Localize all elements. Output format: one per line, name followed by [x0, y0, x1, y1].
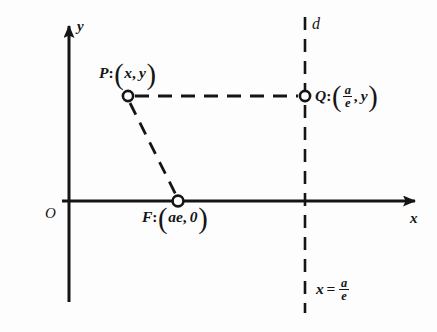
- point-f-open-paren: (: [158, 202, 168, 234]
- point-q-comma: ,: [354, 87, 358, 104]
- point-p-coord-x: x: [124, 64, 132, 81]
- directrix-equation-denominator: e: [339, 289, 348, 303]
- point-f-close-paren: ): [198, 202, 208, 234]
- point-p-open-paren: (: [114, 58, 124, 90]
- point-marker-q: [300, 91, 310, 101]
- point-q-fraction: ae: [343, 84, 352, 110]
- point-f-coord-x: ae: [168, 208, 183, 225]
- point-marker-p: [123, 91, 133, 101]
- directrix-equation-numerator: a: [339, 277, 348, 290]
- point-f-comma: ,: [183, 208, 187, 225]
- point-label-p: P:(x, y): [99, 65, 157, 81]
- directrix-label: d: [312, 16, 320, 32]
- point-q-separator: :: [326, 87, 331, 104]
- point-f-separator: :: [152, 208, 157, 225]
- point-label-f: F:(ae, 0): [142, 209, 208, 225]
- point-q-fraction-denominator: e: [343, 96, 352, 110]
- directrix-equation-variable: x: [316, 280, 324, 297]
- point-q-fraction-numerator: a: [343, 84, 352, 97]
- point-p-comma: ,: [132, 64, 136, 81]
- point-p-coord-y: y: [139, 64, 146, 81]
- directrix-equation-fraction: ae: [339, 277, 348, 303]
- point-f-coord-y: 0: [190, 208, 198, 225]
- point-label-q: Q:(ae, y): [315, 84, 378, 110]
- point-marker-f: [173, 196, 184, 207]
- directrix-equation: x=ae: [316, 277, 350, 303]
- point-q-name: Q: [315, 87, 326, 104]
- diagram-canvas: [0, 0, 437, 332]
- point-p-separator: :: [108, 64, 113, 81]
- conic-focus-directrix-figure: y x O d P:(x, y) Q:(ae, y) F:(ae, 0) x=a…: [0, 0, 437, 332]
- point-q-close-paren: ): [368, 80, 378, 112]
- segment-pf: [130, 103, 176, 195]
- point-q-coord-y: y: [361, 87, 368, 104]
- directrix-equation-equals: =: [327, 280, 336, 297]
- point-p-close-paren: ): [147, 58, 157, 90]
- point-q-open-paren: (: [332, 80, 342, 112]
- origin-label: O: [45, 206, 56, 221]
- x-axis-label: x: [410, 211, 418, 226]
- y-axis-label: y: [77, 19, 84, 34]
- point-f-name: F: [142, 208, 152, 225]
